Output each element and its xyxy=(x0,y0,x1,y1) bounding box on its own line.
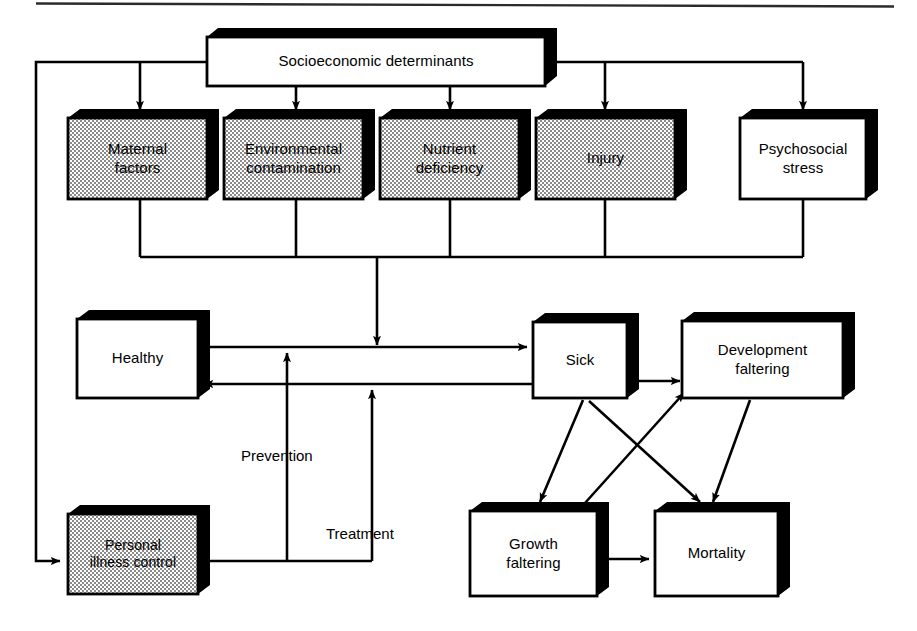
edge-sick-to-mortality xyxy=(589,401,700,502)
node-nutrient-deficiency xyxy=(380,109,531,199)
edge-label-treatment: Treatment xyxy=(326,525,394,542)
diagram-boxes xyxy=(68,28,878,596)
node-healthy xyxy=(77,310,210,398)
node-injury xyxy=(536,109,687,199)
figure-canvas: Socioeconomic determinants Maternal fact… xyxy=(0,0,917,631)
node-mortality xyxy=(655,502,790,596)
node-development-faltering xyxy=(682,312,855,398)
node-personal-illness-control xyxy=(68,505,210,594)
edge-development-faltering-to-mortality xyxy=(713,400,750,502)
node-maternal-factors xyxy=(68,109,219,199)
node-sick xyxy=(533,313,639,398)
edge-label-prevention: Prevention xyxy=(241,447,313,464)
node-environmental-contamination xyxy=(224,109,375,199)
node-psychosocial-stress xyxy=(740,109,878,199)
edge-sick-to-growth-faltering xyxy=(540,400,583,502)
node-socioeconomic-determinants xyxy=(207,28,557,86)
node-growth-faltering xyxy=(470,502,609,596)
diagram-vector-layer xyxy=(0,0,917,631)
page-rule xyxy=(36,4,894,7)
